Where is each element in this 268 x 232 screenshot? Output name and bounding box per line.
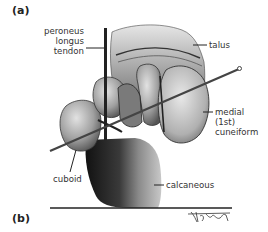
label-cuboid: cuboid [53,174,82,184]
leader-cuboid [70,150,76,172]
label-calcaneous: calcaneous [166,180,214,190]
peroneus-longus-tendon [104,28,107,140]
label-peroneus-longus-tendon: peroneus longus tendon [34,26,84,56]
medial-cuneiform-bone [158,66,209,143]
figure-panel-b-label: (b) [12,212,30,225]
artist-signature [188,212,230,222]
axis-rod-tip [238,67,242,71]
calcaneus-bone [85,138,161,208]
label-talus: talus [209,40,230,50]
label-medial-cuneiform: medial (1st) cuneiform [215,107,258,137]
